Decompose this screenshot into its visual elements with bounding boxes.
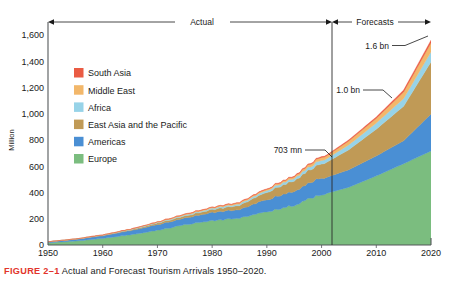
y-tick-1000: 1,000: [21, 109, 44, 119]
legend-label-middle-east: Middle East: [88, 86, 136, 96]
legend-swatch-east-asia-and-the-pacific: [74, 120, 84, 130]
y-tick-400: 400: [29, 188, 44, 198]
y-tick-800: 800: [29, 135, 44, 145]
figure-caption: FIGURE 2–1 Actual and Forecast Tourism A…: [4, 266, 266, 276]
y-axis-title: Million: [7, 129, 16, 150]
legend-swatch-africa: [74, 102, 84, 112]
y-tick-1200: 1,200: [21, 83, 44, 93]
figure-number: FIGURE 2–1: [4, 266, 60, 276]
legend-swatch-americas: [74, 137, 84, 147]
x-axis-tick-labels: 19501960197019801990200020102020: [38, 245, 441, 258]
x-tick-1950: 1950: [38, 248, 58, 258]
x-tick-2000: 2000: [312, 248, 332, 258]
callout-703-mn-label: 703 mn: [274, 145, 303, 155]
legend-label-europe: Europe: [88, 154, 117, 164]
x-tick-1980: 1980: [202, 248, 222, 258]
actual-band-label: Actual: [190, 17, 214, 27]
legend-swatch-south-asia: [74, 68, 84, 78]
x-tick-2020: 2020: [421, 248, 441, 258]
legend-label-americas: Americas: [88, 137, 126, 147]
forecasts-band-label: Forecasts: [356, 17, 393, 27]
legend-label-east-asia-and-the-pacific: East Asia and the Pacific: [88, 120, 188, 130]
callout-1-6-bn-label: 1.6 bn: [365, 41, 389, 51]
y-axis-tick-labels: 02004006008001,0001,2001,4001,600: [21, 30, 44, 250]
tourism-arrivals-area-chart: 02004006008001,0001,2001,4001,600 195019…: [0, 0, 458, 287]
legend-swatch-europe: [74, 154, 84, 164]
x-tick-1960: 1960: [93, 248, 113, 258]
figure-caption-text: Actual and Forecast Tourism Arrivals 195…: [62, 266, 267, 276]
x-tick-1990: 1990: [257, 248, 277, 258]
x-tick-1970: 1970: [147, 248, 167, 258]
x-tick-2010: 2010: [366, 248, 386, 258]
y-tick-600: 600: [29, 162, 44, 172]
y-tick-1600: 1,600: [21, 30, 44, 40]
legend-swatch-middle-east: [74, 85, 84, 95]
y-tick-1400: 1,400: [21, 57, 44, 67]
callout-1-0-bn-label: 1.0 bn: [336, 85, 360, 95]
y-tick-200: 200: [29, 214, 44, 224]
figure-container: 02004006008001,0001,2001,4001,600 195019…: [0, 0, 458, 287]
legend-label-south-asia: South Asia: [88, 68, 131, 78]
legend-label-africa: Africa: [88, 103, 111, 113]
